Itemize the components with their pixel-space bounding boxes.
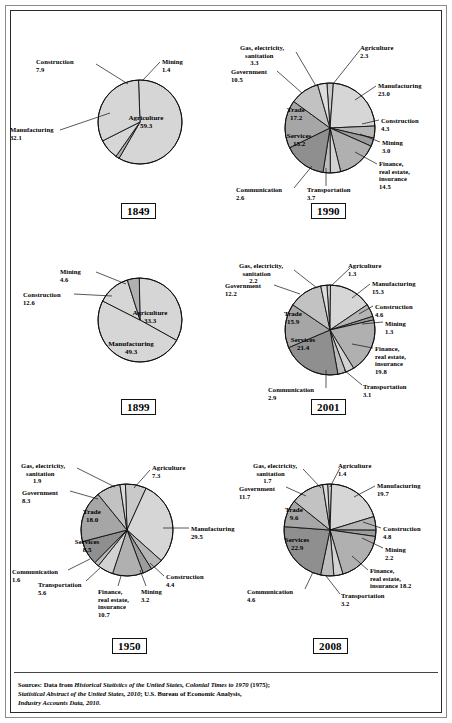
pie-label-2008-transportation: Transportation 3.2: [341, 592, 384, 607]
leader-line: [70, 491, 98, 499]
leader-line: [344, 370, 362, 385]
pie-label-1899-agriculture: Agriculture 33.3: [124, 309, 176, 325]
leader-line: [277, 71, 302, 93]
pie-label-2001-communication: Communication 2.9: [268, 386, 314, 401]
pie-label-2008-construction: Construction 4.8: [383, 525, 421, 540]
pie-label-1990-construction: Construction 4.3: [381, 117, 419, 132]
pie-chart-2001: [274, 268, 383, 388]
leader-line: [352, 284, 370, 298]
sources-line-2: Statistical Abstract of the United State…: [18, 689, 418, 698]
leader-line: [296, 52, 316, 86]
pie-label-2008-communication: Communication 4.6: [247, 588, 293, 603]
sources-note: Sources: Data from Historical Statistics…: [18, 680, 418, 707]
pie-label-1950-mining: Mining 3.2: [141, 588, 162, 603]
pie-label-2008-government: Government 11.7: [239, 485, 275, 500]
pie-label-1950-gas-electricity-sanitation: Gas, electricity, sanitation 1.9: [21, 462, 65, 485]
pie-label-1950-finance-real-estate-insurance: Finance, real estate, insurance 10.7: [98, 588, 129, 618]
leader-line: [305, 572, 313, 589]
leader-line: [96, 272, 126, 284]
pie-chart-1950: [68, 468, 189, 586]
sources-suffix-2: ; U.S. Bureau of Economic Analysis,: [140, 690, 241, 697]
pie-label-2001-finance-real-estate-insurance: Finance, real estate, insurance 19.8: [375, 345, 406, 375]
leader-line: [286, 487, 306, 496]
pie-label-1990-services: Services 15.2: [273, 132, 325, 148]
pie-label-1950-construction: Construction 4.4: [166, 573, 204, 588]
sources-title-2: Statistical Abstract of the United State…: [18, 690, 140, 697]
year-box-1899[interactable]: 1899: [121, 399, 156, 415]
pie-label-1950-manufacturing: Manufacturing 29.5: [191, 525, 235, 540]
leader-line: [354, 486, 375, 497]
pie-chart-2008: [284, 468, 383, 594]
sources-line-1: Sources: Data from Historical Statistics…: [18, 680, 418, 689]
sources-suffix-3: .: [99, 699, 101, 706]
pie-label-1899-manufacturing: Manufacturing 49.3: [105, 340, 157, 356]
sources-title-1: Historical Statistics of the United Stat…: [74, 681, 248, 688]
year-box-1849[interactable]: 1849: [121, 203, 156, 219]
pie-label-2001-manufacturing: Manufacturing 15.3: [372, 280, 416, 295]
leader-line: [77, 468, 115, 487]
leader-line: [86, 568, 100, 581]
sources-title-3: Industry Accounts Data, 2010: [18, 699, 99, 706]
leader-line: [294, 166, 312, 188]
sources-suffix-1: (1975);: [248, 681, 269, 688]
leader-line: [118, 576, 121, 586]
pie-label-1990-transportation: Transportation 3.7: [307, 186, 350, 201]
leader-line: [68, 559, 90, 570]
pie-label-1899-construction: Construction 12.6: [23, 291, 61, 306]
pie-label-1849-agriculture: Agriculture 59.3: [120, 114, 172, 130]
leader-line: [96, 64, 128, 84]
pie-label-2001-transportation: Transportation 3.1: [363, 383, 406, 398]
leader-line: [134, 470, 150, 488]
pie-label-1950-services: Services 8.5: [61, 538, 113, 554]
pie-label-1849-construction: Construction 7.9: [36, 58, 74, 73]
pie-label-1950-government: Government 8.3: [22, 489, 58, 504]
pie-label-1849-mining: Mining 1.4: [162, 58, 183, 73]
pie-label-2001-trade: Trade 15.9: [267, 310, 319, 326]
leader-line: [303, 469, 321, 488]
pie-label-2008-trade: Trade 9.6: [268, 506, 320, 522]
pie-label-1950-transportation: Transportation 5.6: [38, 581, 81, 596]
pie-label-1990-communication: Communication 2.6: [236, 186, 282, 201]
sources-line-3: Industry Accounts Data, 2010.: [18, 698, 418, 707]
pie-label-2001-government: Government 12.2: [225, 282, 261, 297]
pie-label-1990-manufacturing: Manufacturing 23.0: [378, 82, 422, 97]
pie-label-2001-services: Services 21.4: [277, 336, 329, 352]
pie-label-1899-mining: Mining 4.6: [60, 268, 81, 283]
year-box-2008[interactable]: 2008: [313, 638, 348, 654]
pie-label-1990-agriculture: Agriculture 2.3: [360, 44, 393, 59]
sources-divider: [14, 672, 438, 673]
pie-chart-1849: [60, 62, 182, 164]
leader-line: [143, 62, 160, 80]
year-box-1950[interactable]: 1950: [112, 638, 147, 654]
leader-line: [326, 576, 340, 594]
leader-line: [294, 270, 317, 288]
pie-slice-manufacturing[interactable]: [330, 83, 375, 128]
pie-label-2008-gas-electricity-sanitation: Gas, electricity, sanitation 1.7: [253, 462, 297, 485]
pie-label-1950-communication: Communication 1.6: [12, 568, 58, 583]
pie-label-1849-manufacturing: Manufacturing 32.1: [10, 126, 54, 141]
pie-label-2008-mining: Mining 2.2: [385, 546, 406, 561]
pie-label-2008-services: Services 22.9: [271, 536, 323, 552]
pie-label-1990-government: Government 10.5: [231, 68, 267, 83]
pie-label-2001-construction: Construction 4.6: [375, 303, 413, 318]
leader-line: [333, 50, 360, 84]
pie-label-1990-trade: Trade 17.2: [270, 106, 322, 122]
leader-line: [274, 285, 300, 294]
pie-label-2001-mining: Mining 1.3: [385, 320, 406, 335]
pie-label-1950-trade: Trade 18.0: [66, 508, 118, 524]
pie-label-1990-gas-electricity-sanitation: Gas, electricity, sanitation 3.3: [240, 44, 284, 67]
pie-label-2001-agriculture: Agriculture 1.3: [348, 262, 381, 277]
pie-label-2008-manufacturing: Manufacturing 19.7: [377, 482, 421, 497]
pie-label-1990-mining: Mining 3.0: [382, 139, 403, 154]
pie-label-2008-agriculture: Agriculture 1.4: [338, 462, 371, 477]
pie-label-2008-finance-real-estate-insurance: Finance, real estate, insurance 18.2: [370, 567, 411, 590]
pie-label-1990-finance-real-estate-insurance: Finance, real estate, insurance 14.5: [379, 160, 410, 190]
sources-prefix: Sources: Data from: [18, 681, 74, 688]
year-box-1990[interactable]: 1990: [311, 203, 346, 219]
pie-label-1950-agriculture: Agriculture 7.3: [152, 464, 185, 479]
year-box-2001[interactable]: 2001: [311, 399, 346, 415]
